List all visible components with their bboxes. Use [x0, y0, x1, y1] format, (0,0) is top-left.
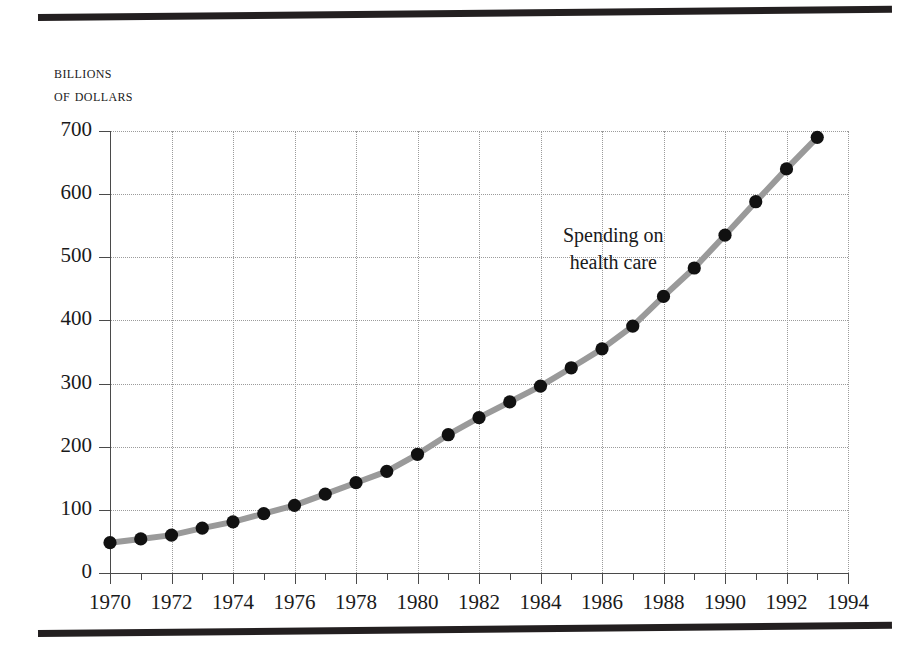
data-point-marker	[411, 448, 424, 461]
data-point-marker	[718, 229, 731, 242]
data-series-layer	[0, 0, 920, 651]
data-point-marker	[811, 131, 824, 144]
data-point-marker	[134, 532, 147, 545]
data-point-marker	[472, 411, 485, 424]
data-point-marker	[442, 428, 455, 441]
annotation-line2: health care	[563, 249, 664, 276]
data-point-marker	[226, 515, 239, 528]
data-point-marker	[165, 529, 178, 542]
data-point-marker	[749, 195, 762, 208]
data-point-marker	[657, 290, 670, 303]
data-point-marker	[380, 465, 393, 478]
data-point-marker	[565, 361, 578, 374]
annotation-line1: Spending on	[563, 222, 664, 249]
data-point-marker	[319, 487, 332, 500]
data-point-marker	[534, 379, 547, 392]
data-point-marker	[688, 261, 701, 274]
data-point-marker	[288, 499, 301, 512]
data-point-marker	[503, 395, 516, 408]
data-point-marker	[196, 522, 209, 535]
series-annotation: Spending on health care	[563, 222, 664, 276]
data-point-marker	[626, 320, 639, 333]
data-point-marker	[780, 162, 793, 175]
data-point-marker	[103, 536, 116, 549]
data-point-marker	[349, 476, 362, 489]
series-line	[110, 137, 817, 542]
data-point-marker	[257, 507, 270, 520]
data-point-marker	[595, 342, 608, 355]
